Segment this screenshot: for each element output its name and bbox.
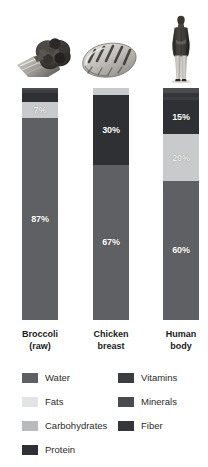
category-label-line2: (raw) (3, 341, 77, 353)
category-label-broccoli: Broccoli (raw) (3, 329, 77, 352)
chicken-breast-photo (79, 36, 139, 84)
broccoli-photo (14, 32, 76, 84)
segment-protein[interactable]: 30% (93, 95, 129, 165)
category-label-line1: Chicken (93, 329, 128, 339)
legend-swatch-carbohydrates (22, 421, 38, 431)
legend-item-vitamins[interactable]: Vitamins (118, 371, 177, 385)
legend-swatch-minerals (118, 397, 134, 407)
legend-label-minerals: Minerals (141, 397, 177, 407)
legend-item-protein[interactable]: Protein (22, 443, 107, 457)
legend-swatch-water (22, 373, 38, 383)
segment-fats[interactable]: 20% (163, 134, 199, 180)
legend-label-protein: Protein (45, 445, 75, 455)
stacked-bar-human[interactable]: 15% 20% 60% (163, 88, 199, 320)
legend-swatch-fats (22, 397, 38, 407)
legend-label-carbohydrates: Carbohydrates (45, 421, 107, 431)
segment-label-fats: 7% (22, 106, 58, 115)
legend-swatch-protein (22, 445, 38, 455)
legend-label-fiber: Fiber (141, 421, 163, 431)
segment-water[interactable]: 87% (22, 118, 58, 320)
legend-item-fiber[interactable]: Fiber (118, 419, 177, 433)
segment-fats[interactable] (93, 88, 129, 95)
segment-label-fats: 20% (163, 153, 199, 162)
legend-label-water: Water (45, 373, 70, 383)
legend-swatch-fiber (118, 421, 134, 431)
segment-label-water: 87% (22, 215, 58, 224)
stacked-bar-chicken[interactable]: 30% 67% (93, 88, 129, 320)
segment-label-protein: 30% (93, 125, 129, 134)
category-label-line2: body (144, 341, 208, 353)
segment-water[interactable]: 67% (93, 165, 129, 320)
legend-column-right: Vitamins Minerals Fiber (118, 371, 177, 443)
legend-item-carbohydrates[interactable]: Carbohydrates (22, 419, 107, 433)
segment-protein[interactable]: 15% (163, 100, 199, 135)
segment-label-protein: 15% (163, 112, 199, 121)
segment-label-water: 67% (93, 238, 129, 247)
legend-column-left: Water Fats Carbohydrates Protein (22, 371, 107, 467)
segment-fats[interactable]: 7% (22, 102, 58, 118)
human-body-photo (162, 10, 200, 84)
legend-item-minerals[interactable]: Minerals (118, 395, 177, 409)
legend-label-vitamins: Vitamins (141, 373, 177, 383)
legend-item-water[interactable]: Water (22, 371, 107, 385)
legend-item-fats[interactable]: Fats (22, 395, 107, 409)
segment-protein[interactable] (22, 93, 58, 102)
category-label-human: Human body (144, 329, 208, 352)
category-label-chicken: Chicken breast (74, 329, 148, 352)
legend-label-fats: Fats (45, 397, 63, 407)
legend-swatch-vitamins (118, 373, 134, 383)
stacked-bar-broccoli[interactable]: 7% 87% (22, 88, 58, 320)
segment-label-water: 60% (163, 246, 199, 255)
nutrition-composition-chart: 7% 87% 30% 67% 15% 20% (0, 0, 208, 467)
category-label-line1: Broccoli (22, 329, 58, 339)
category-label-line1: Human (166, 329, 197, 339)
category-label-line2: breast (74, 341, 148, 353)
segment-water[interactable]: 60% (163, 181, 199, 320)
